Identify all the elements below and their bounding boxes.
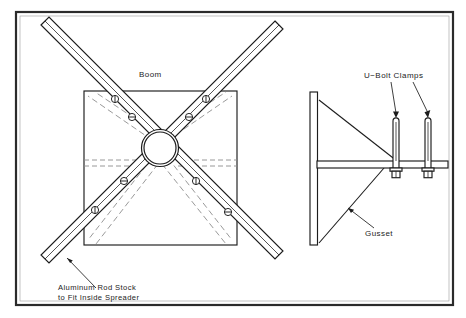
u-bolt-left xyxy=(390,118,402,178)
boom-label: Boom xyxy=(139,70,162,79)
fastener-marker xyxy=(128,113,135,120)
drawing-svg: Boom Aluminum Rod Stock to Fit Inside Sp… xyxy=(0,0,466,318)
u-bolt-clamps-label: U−Bolt Clamps xyxy=(364,71,423,80)
rod-stock-callout: Aluminum Rod Stock to Fit Inside Spreade… xyxy=(58,258,139,302)
fastener-marker xyxy=(202,95,209,102)
rod-stock-label-line1: Aluminum Rod Stock xyxy=(58,283,136,292)
fastener-marker xyxy=(111,95,118,102)
spreader-plan-view: Boom Aluminum Rod Stock to Fit Inside Sp… xyxy=(41,17,283,302)
fastener-marker xyxy=(224,208,231,215)
hub-inner-ring xyxy=(144,132,176,164)
u-bolt-clamps-callout: U−Bolt Clamps xyxy=(364,71,430,118)
boom-square-outline xyxy=(84,91,237,245)
fastener-marker xyxy=(192,177,199,184)
gusset-upper xyxy=(319,100,397,161)
fastener-marker xyxy=(91,206,98,213)
gusset-label: Gusset xyxy=(365,229,393,238)
u-bolt-right xyxy=(422,118,434,178)
gusset-callout: Gusset xyxy=(348,208,393,238)
fastener-marker xyxy=(120,177,127,184)
center-hub-pipe xyxy=(142,130,179,167)
rod-stock-label-line2: to Fit Inside Spreader xyxy=(58,293,139,302)
technical-drawing-canvas: Boom Aluminum Rod Stock to Fit Inside Sp… xyxy=(0,0,466,318)
fastener-marker xyxy=(185,113,192,120)
mast-vertical xyxy=(310,92,318,245)
mast-bracket-elevation: U−Bolt Clamps Gusset xyxy=(310,71,448,245)
